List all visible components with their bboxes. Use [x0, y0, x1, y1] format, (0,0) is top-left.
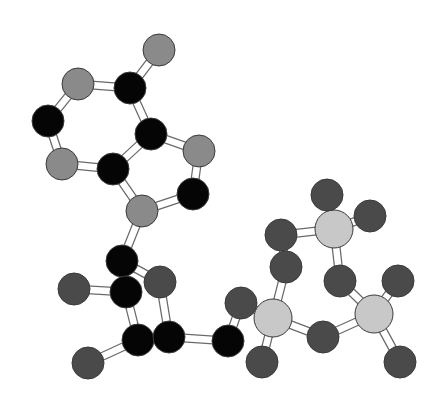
atom-p [315, 210, 353, 248]
atom-n [62, 68, 94, 100]
atom-c [153, 321, 185, 353]
ball-and-stick-model [0, 0, 448, 401]
atom-c [114, 72, 146, 104]
atom-c [135, 118, 167, 150]
atom-c [32, 105, 64, 137]
atom-n [46, 148, 78, 180]
atom-c [212, 325, 244, 357]
atom-n [143, 34, 175, 66]
atom-o [58, 273, 90, 305]
atom-o [384, 346, 416, 378]
atom-o [246, 346, 278, 378]
atom-n [183, 135, 215, 167]
atoms-layer [32, 34, 416, 379]
atom-o [324, 265, 356, 297]
atom-o [265, 219, 297, 251]
atom-n [126, 195, 158, 227]
molecule-figure [0, 0, 448, 401]
atom-p [254, 299, 292, 337]
atom-o [270, 251, 302, 283]
atom-o [72, 347, 104, 379]
atom-o [382, 265, 414, 297]
atom-c [177, 178, 209, 210]
atom-o [144, 266, 176, 298]
atom-o [311, 179, 343, 211]
atom-c [110, 276, 142, 308]
bonds-layer [48, 50, 400, 363]
atom-o [354, 200, 386, 232]
atom-p [355, 295, 393, 333]
atom-o [225, 287, 257, 319]
atom-c [97, 153, 129, 185]
atom-o [307, 321, 339, 353]
atom-c [122, 324, 154, 356]
atom-c [106, 245, 138, 277]
